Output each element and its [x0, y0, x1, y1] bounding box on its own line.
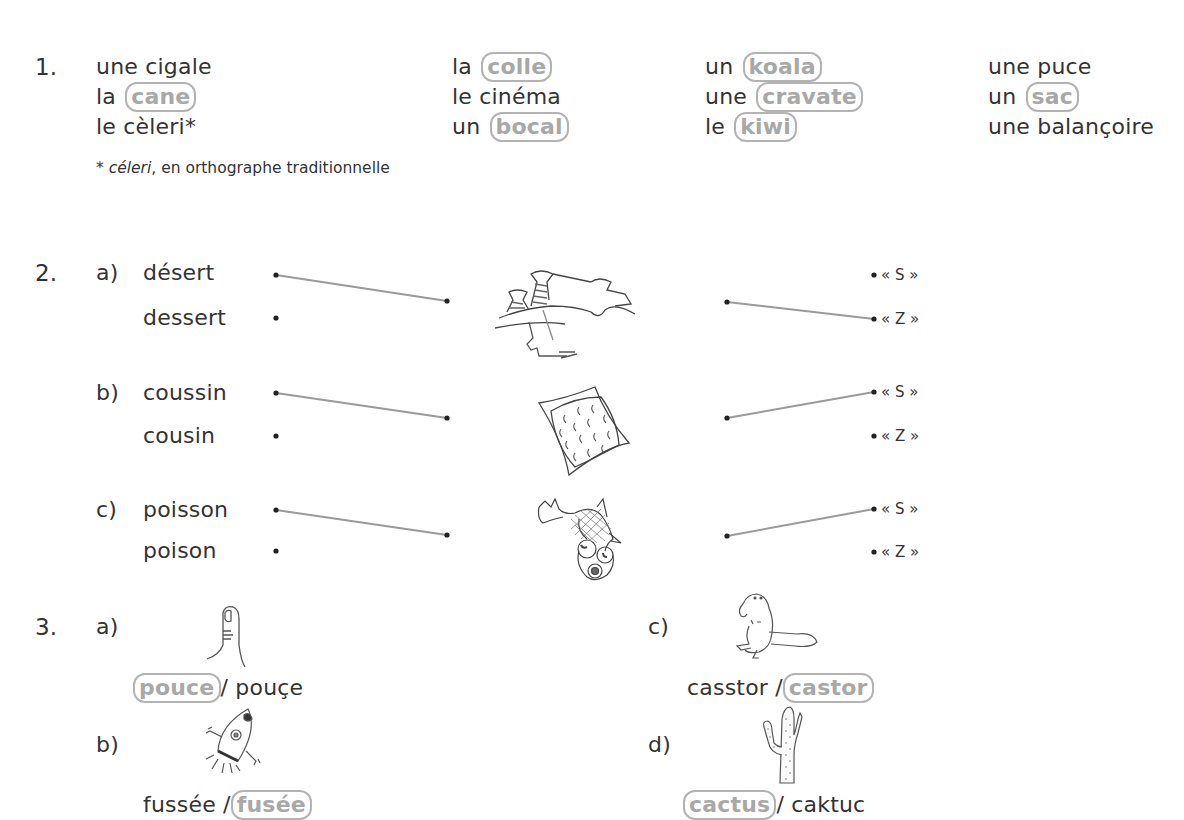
- fish-image: [535, 495, 635, 585]
- item-letter: c): [96, 495, 117, 525]
- sound-s-label[interactable]: « S »: [881, 265, 918, 285]
- spelling-choice: fussée /fusée: [143, 790, 312, 820]
- word-option[interactable]: dessert: [143, 303, 226, 333]
- thumb-image: [205, 605, 255, 673]
- separator: /: [216, 792, 231, 817]
- beaver-image: [735, 592, 825, 664]
- word-option[interactable]: poisson: [143, 495, 228, 525]
- word-option[interactable]: poison: [143, 536, 217, 566]
- item-letter: b): [96, 730, 119, 760]
- item-letter: c): [648, 612, 669, 642]
- separator: /: [768, 675, 783, 700]
- sound-z-label[interactable]: « Z »: [881, 426, 919, 446]
- wrong-option[interactable]: caktuc: [791, 792, 865, 817]
- cactus-image: [760, 705, 810, 785]
- circled-answer[interactable]: fusée: [231, 790, 312, 820]
- desert-image: [495, 260, 640, 360]
- exercise-3-number: 3.: [35, 612, 57, 642]
- circled-answer[interactable]: castor: [783, 673, 874, 703]
- item-letter: d): [648, 730, 671, 760]
- sound-s-label[interactable]: « S »: [881, 499, 918, 519]
- wrong-option[interactable]: pouçe: [235, 675, 303, 700]
- item-letter: a): [96, 612, 118, 642]
- separator: /: [776, 792, 791, 817]
- sound-s-label[interactable]: « S »: [881, 382, 918, 402]
- word-option[interactable]: désert: [143, 258, 214, 288]
- sound-z-label[interactable]: « Z »: [881, 309, 919, 329]
- spelling-choice: cactus/ caktuc: [683, 790, 865, 820]
- wrong-option[interactable]: casstor: [687, 675, 768, 700]
- circled-answer[interactable]: pouce: [133, 673, 221, 703]
- item-letter: a): [96, 258, 118, 288]
- rocket-image: [200, 705, 265, 775]
- word-option[interactable]: coussin: [143, 378, 227, 408]
- word-option[interactable]: cousin: [143, 421, 215, 451]
- separator: /: [221, 675, 236, 700]
- sound-z-label[interactable]: « Z »: [881, 542, 919, 562]
- exercise-2-number: 2.: [35, 258, 57, 288]
- circled-answer[interactable]: cactus: [683, 790, 776, 820]
- wrong-option[interactable]: fussée: [143, 792, 216, 817]
- item-letter: b): [96, 378, 119, 408]
- spelling-choice: casstor /castor: [687, 673, 874, 703]
- cushion-image: [535, 385, 635, 480]
- spelling-choice: pouce/ pouçe: [133, 673, 303, 703]
